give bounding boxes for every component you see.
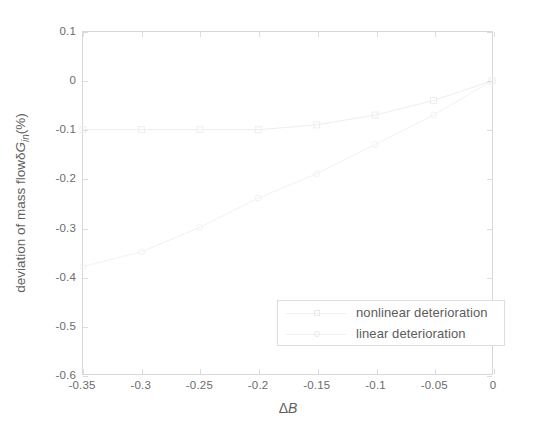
x-tick-4	[318, 32, 319, 37]
y-tick-0	[487, 32, 492, 33]
x-tick-5	[377, 32, 378, 37]
y-axis-title-units: (%)	[13, 113, 28, 134]
x-tick-6	[435, 369, 436, 374]
y-tick-5	[487, 278, 492, 279]
x-tick-label-7: 0	[490, 379, 497, 391]
y-tick-1	[487, 81, 492, 82]
x-tick-label-4: -0.15	[303, 379, 330, 391]
x-tick-6	[435, 32, 436, 37]
y-tick-label-7: -0.6	[55, 369, 76, 381]
x-tick-label-5: -0.1	[365, 379, 386, 391]
legend-box: nonlinear deterioration linear deteriora…	[277, 300, 505, 346]
y-tick-4	[487, 229, 492, 230]
y-tick-4	[83, 229, 88, 230]
x-tick-2	[200, 32, 201, 37]
y-axis-title-prefix: deviation of mass flowδ	[13, 152, 28, 292]
x-axis-title: ΔB	[279, 400, 298, 416]
y-tick-label-5: -0.4	[55, 271, 76, 283]
y-axis-title: deviation of mass flowδGin(%)	[13, 113, 31, 293]
x-tick-3	[259, 32, 260, 37]
y-tick-5	[83, 278, 88, 279]
y-axis-title-variable: G	[13, 142, 28, 153]
legend-marker-nonlinear	[278, 303, 356, 323]
y-tick-0	[83, 32, 88, 33]
x-tick-label-3: -0.2	[248, 379, 269, 391]
y-tick-2	[487, 130, 492, 131]
y-tick-label-2: -0.1	[55, 123, 76, 135]
y-tick-label-1: 0	[69, 74, 76, 86]
y-tick-label-4: -0.3	[55, 222, 76, 234]
y-tick-7	[487, 376, 492, 377]
x-tick-5	[377, 369, 378, 374]
y-tick-1	[83, 81, 88, 82]
y-tick-6	[83, 327, 88, 328]
series-line-1	[83, 81, 492, 267]
x-tick-label-1: -0.3	[130, 379, 151, 391]
x-tick-2	[200, 369, 201, 374]
x-tick-7	[494, 32, 495, 37]
legend-item-linear: linear deterioration	[278, 322, 504, 345]
x-tick-label-6: -0.05	[421, 379, 448, 391]
x-axis-title-variable: B	[288, 400, 297, 416]
series-line-0	[83, 81, 492, 130]
x-axis-title-delta: Δ	[279, 400, 288, 416]
y-tick-label-6: -0.5	[55, 320, 76, 332]
x-tick-4	[318, 369, 319, 374]
x-tick-1	[142, 32, 143, 37]
legend-item-nonlinear: nonlinear deterioration	[278, 301, 504, 324]
y-tick-3	[487, 179, 492, 180]
x-tick-0	[83, 369, 84, 374]
legend-marker-linear	[278, 324, 356, 344]
y-tick-2	[83, 130, 88, 131]
x-tick-3	[259, 369, 260, 374]
legend-label-linear: linear deterioration	[356, 326, 466, 341]
y-axis-title-subscript: in	[20, 134, 31, 142]
y-tick-label-0: 0.1	[59, 25, 76, 37]
figure-canvas: -0.35-0.3-0.25-0.2-0.15-0.1-0.050 0.10-0…	[0, 0, 541, 439]
x-tick-label-2: -0.25	[186, 379, 213, 391]
x-tick-7	[494, 369, 495, 374]
y-tick-3	[83, 179, 88, 180]
legend-label-nonlinear: nonlinear deterioration	[356, 305, 488, 320]
y-tick-label-3: -0.2	[55, 172, 76, 184]
y-tick-7	[83, 376, 88, 377]
x-tick-1	[142, 369, 143, 374]
